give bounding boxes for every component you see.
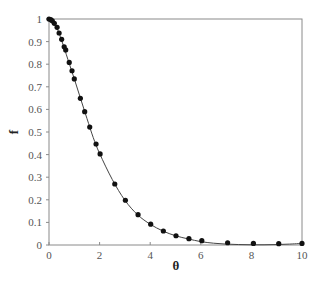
- x-tick-label: 8: [249, 249, 255, 261]
- y-axis-ticks: 00.10.20.30.40.50.60.70.80.91: [28, 13, 49, 251]
- y-tick-label: 0.6: [28, 103, 42, 115]
- x-tick-label: 10: [297, 249, 309, 261]
- data-point: [225, 240, 230, 245]
- data-point: [276, 241, 281, 246]
- data-point: [93, 141, 98, 146]
- x-tick-label: 2: [97, 249, 103, 261]
- x-tick-label: 4: [147, 249, 153, 261]
- data-point: [251, 241, 256, 246]
- data-point: [72, 76, 77, 81]
- data-point: [82, 109, 87, 114]
- y-tick-label: 0: [37, 239, 43, 251]
- plot-frame: [49, 19, 302, 245]
- y-tick-label: 0.3: [28, 171, 42, 183]
- x-axis-label: θ: [173, 258, 180, 273]
- x-tick-label: 6: [198, 249, 204, 261]
- data-point: [173, 233, 178, 238]
- plot-area-border: [49, 19, 302, 245]
- data-point: [67, 60, 72, 65]
- data-point: [123, 198, 128, 203]
- y-tick-label: 1: [37, 13, 43, 25]
- y-tick-label: 0.9: [28, 36, 42, 48]
- data-point: [112, 181, 117, 186]
- curve-path: [49, 19, 302, 245]
- data-point: [69, 68, 74, 73]
- fitted-curve: [49, 19, 302, 245]
- data-points: [46, 16, 304, 246]
- data-point: [63, 47, 68, 52]
- data-point: [59, 37, 64, 42]
- data-point: [299, 241, 304, 246]
- x-tick-label: 0: [46, 249, 52, 261]
- chart: 00.10.20.30.40.50.60.70.80.91 0246810 f …: [0, 0, 323, 284]
- y-tick-label: 0.2: [28, 194, 42, 206]
- y-tick-label: 0.5: [28, 126, 42, 138]
- data-point: [199, 238, 204, 243]
- y-axis-label: f: [6, 129, 21, 134]
- data-point: [78, 96, 83, 101]
- data-point: [87, 124, 92, 129]
- data-point: [135, 212, 140, 217]
- data-point: [98, 151, 103, 156]
- data-point: [186, 236, 191, 241]
- data-point: [148, 222, 153, 227]
- y-tick-label: 0.8: [28, 58, 42, 70]
- data-point: [161, 228, 166, 233]
- data-point: [54, 25, 59, 30]
- y-tick-label: 0.1: [28, 216, 42, 228]
- y-tick-label: 0.4: [28, 149, 42, 161]
- y-tick-label: 0.7: [28, 81, 42, 93]
- data-point: [57, 30, 62, 35]
